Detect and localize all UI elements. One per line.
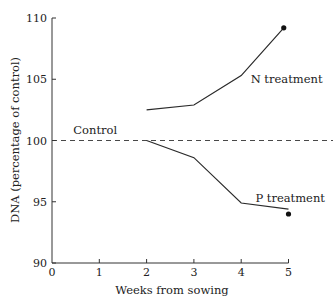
series-line-n-treatment [147,28,284,110]
x-tick-label: 5 [285,266,292,279]
x-tick-label: 3 [190,266,197,279]
x-tick-label: 0 [49,266,56,279]
x-tick-label: 1 [96,266,103,279]
y-axis-title: DNA (percentage of control) [8,57,22,223]
line-chart: 0123459095100105110 Weeks from sowing DN… [0,0,334,304]
labels: Weeks from sowing DNA (percentage of con… [8,57,325,297]
end-point-marker [281,25,286,30]
annotation-n-treatment: N treatment [251,72,323,86]
y-tick-label: 95 [33,196,47,209]
y-tick-label: 100 [26,135,47,148]
end-point-marker [286,211,291,216]
y-tick-label: 105 [26,73,47,86]
annotation-control: Control [73,123,117,137]
x-tick-label: 4 [238,266,245,279]
x-axis-title: Weeks from sowing [115,283,229,297]
series-group [147,25,292,216]
x-tick-label: 2 [143,266,150,279]
annotation-p-treatment: P treatment [255,191,325,205]
y-tick-label: 90 [33,257,47,270]
y-tick-label: 110 [26,12,47,25]
